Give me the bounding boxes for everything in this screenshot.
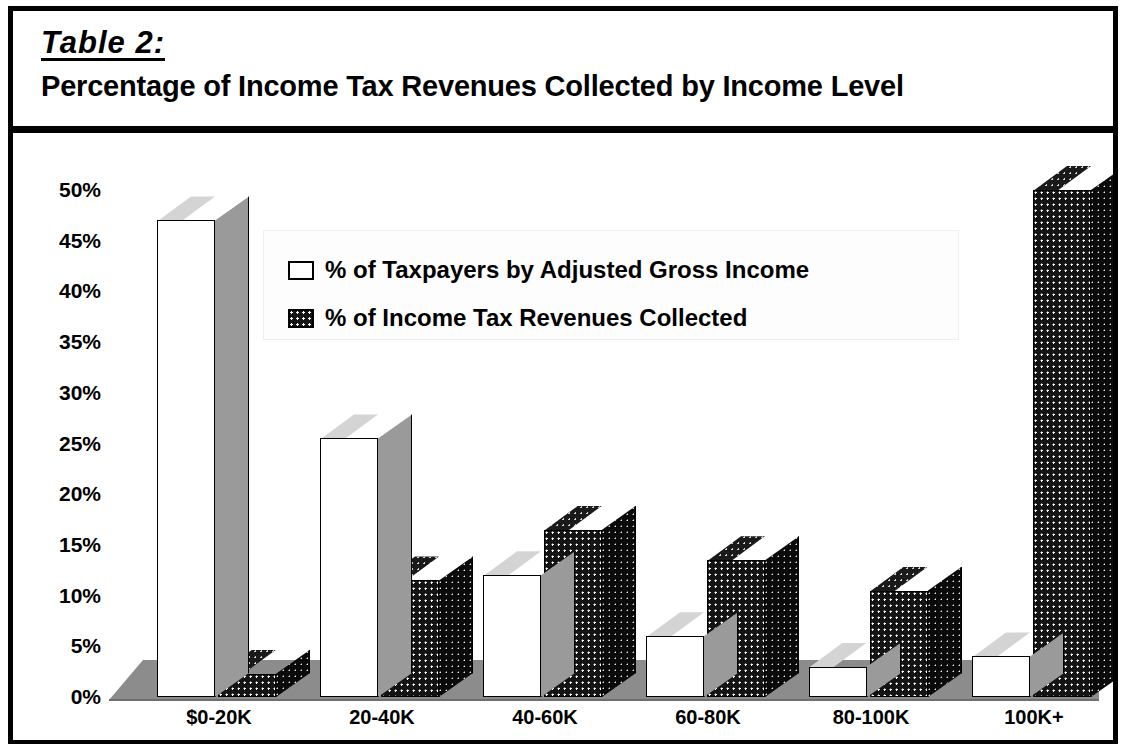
bar-side-face: [765, 536, 799, 697]
light-swatch-icon: [288, 261, 314, 280]
bar-group: [646, 696, 799, 697]
bar-side-face: [439, 556, 473, 697]
bar-top-face: [1033, 166, 1091, 191]
bar-side-face: [276, 650, 310, 697]
x-axis-tick: $0-20K: [186, 706, 252, 729]
bar-side-face: [215, 196, 249, 697]
bar-side-face: [928, 567, 962, 697]
bar-top-face: [870, 567, 928, 592]
x-axis-tick: 40-60K: [512, 706, 578, 729]
bar-side-face: [602, 506, 636, 697]
bar-front-face: [483, 575, 541, 697]
x-axis-tick: 60-80K: [675, 706, 741, 729]
legend-item: % of Taxpayers by Adjusted Gross Income: [288, 249, 958, 291]
x-axis-tick: 20-40K: [349, 706, 415, 729]
x-axis-tick: 100K+: [1004, 706, 1064, 729]
chart-plot-area: 50%45%40%35%30%25%20%15%10%5%0% $0-20K20…: [13, 140, 1113, 740]
bar-light-0-20k: [157, 220, 215, 697]
bar-group: [809, 696, 962, 697]
bar-light-40-60k: [483, 575, 541, 697]
figure-title: Percentage of Income Tax Revenues Collec…: [41, 70, 1113, 103]
x-axis-tick: 80-100K: [833, 706, 910, 729]
bar-front-face: [972, 656, 1030, 697]
bar-light-100k: [972, 656, 1030, 697]
bar-side-face: [378, 414, 412, 697]
figure-frame: Table 2: Percentage of Income Tax Revenu…: [8, 6, 1118, 744]
bar-front-face: [157, 220, 215, 697]
bar-top-face: [544, 506, 602, 531]
bar-top-face: [157, 196, 215, 221]
x-axis: $0-20K20-40K40-60K60-80K80-100K100K+: [109, 706, 1099, 740]
bar-group: [483, 696, 636, 697]
bar-front-face: [320, 438, 378, 697]
chart-legend: % of Taxpayers by Adjusted Gross Income …: [263, 230, 959, 340]
bar-group: [320, 696, 473, 697]
bar-top-face: [646, 612, 704, 637]
legend-item-label: % of Taxpayers by Adjusted Gross Income: [325, 256, 809, 284]
bar-top-face: [707, 536, 765, 561]
legend-item: % of Income Tax Revenues Collected: [288, 297, 958, 339]
bar-top-face: [809, 643, 867, 668]
bar-group: [157, 696, 310, 697]
bar-light-60-80k: [646, 636, 704, 697]
bar-top-face: [972, 632, 1030, 657]
bar-front-face: [809, 667, 867, 697]
bar-side-face: [1091, 166, 1113, 697]
bar-top-face: [483, 551, 541, 576]
legend-item-label: % of Income Tax Revenues Collected: [325, 304, 747, 332]
dark-swatch-icon: [288, 309, 314, 328]
bar-dark-100k: [1033, 190, 1091, 697]
bar-light-80-100k: [809, 667, 867, 697]
figure-header: Table 2: Percentage of Income Tax Revenu…: [13, 11, 1113, 133]
bar-light-20-40k: [320, 438, 378, 697]
table-label: Table 2:: [41, 25, 165, 61]
bar-side-face: [541, 551, 575, 697]
bar-top-face: [320, 414, 378, 439]
bar-front-face: [1033, 190, 1091, 697]
bar-front-face: [646, 636, 704, 697]
bar-group: [972, 696, 1113, 697]
